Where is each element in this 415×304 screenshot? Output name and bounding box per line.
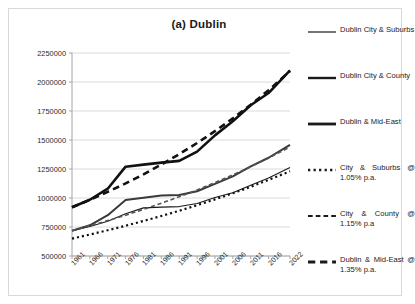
series-line-4 [72, 171, 290, 238]
y-tick-label: 1250000 [14, 165, 66, 174]
legend-item[interactable]: Dublin & Mid-East [307, 117, 415, 131]
series-line-3 [72, 70, 290, 207]
series-line-1 [72, 167, 290, 230]
legend-line-icon [307, 163, 337, 177]
y-tick-label: 750000 [14, 223, 66, 232]
chart-frame: (a) Dublin 22500002000000175000015000001… [8, 8, 402, 296]
y-tick-label: 2250000 [14, 49, 66, 58]
legend-item[interactable]: Dublin City & Suburbs [307, 25, 415, 39]
legend-label: Dublin & Mid-East [340, 117, 401, 127]
y-tick-label: 500000 [14, 252, 66, 261]
y-tick-label: 1000000 [14, 194, 66, 203]
legend-label: Dublin & Mid-East @ 1.35% p.a. [340, 255, 415, 275]
legend-line-icon [307, 117, 337, 131]
legend-label: Dublin City & County [340, 71, 410, 81]
legend-item[interactable]: Dublin City & County [307, 71, 415, 85]
legend-item[interactable]: City & County @ 1.15% p.a [307, 209, 415, 229]
y-tick-label: 2000000 [14, 78, 66, 87]
legend-line-icon [307, 71, 337, 85]
y-tick-label: 1750000 [14, 107, 66, 116]
legend-line-icon [307, 209, 337, 223]
legend-line-icon [307, 25, 337, 39]
legend-item[interactable]: Dublin & Mid-East @ 1.35% p.a. [307, 255, 415, 275]
legend-label: City & Suburbs @ 1.05% p.a. [340, 163, 415, 183]
y-tick-label: 1500000 [14, 136, 66, 145]
legend-label: Dublin City & Suburbs [340, 25, 414, 35]
series-line-2 [72, 145, 290, 231]
legend-item[interactable]: City & Suburbs @ 1.05% p.a. [307, 163, 415, 183]
legend-label: City & County @ 1.15% p.a [340, 209, 415, 229]
series-line-6 [72, 71, 290, 207]
legend-line-icon [307, 255, 337, 269]
